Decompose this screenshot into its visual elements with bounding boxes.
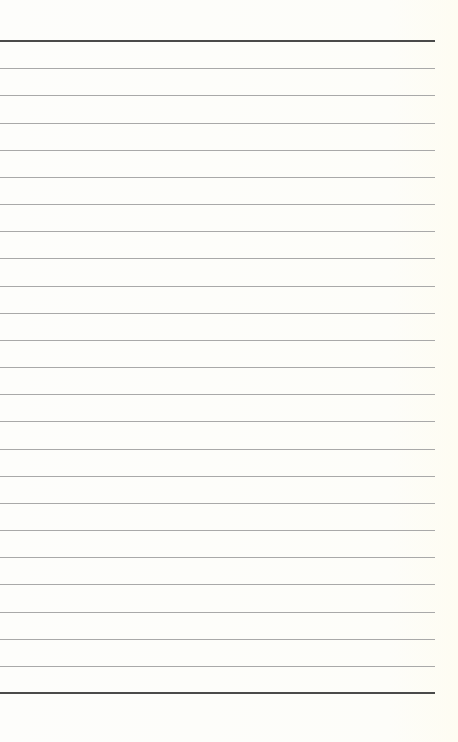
ruled-line [0,313,435,314]
ruled-line [0,286,435,287]
ruled-line [0,204,435,205]
ruled-line [0,340,435,341]
ruled-line [0,612,435,613]
ruled-line [0,177,435,178]
ruled-line [0,367,435,368]
ruled-line [0,123,435,124]
ruled-line [0,150,435,151]
lined-paper-page [0,0,458,742]
ruled-line [0,231,435,232]
ruled-line [0,584,435,585]
ruled-line [0,68,435,69]
ruled-line [0,258,435,259]
ruled-line [0,476,435,477]
ruled-line [0,503,435,504]
ruled-line [0,666,435,667]
ruled-line [0,639,435,640]
ruled-line [0,394,435,395]
ruled-line [0,530,435,531]
top-border-rule [0,40,435,42]
ruled-line [0,95,435,96]
ruled-line [0,557,435,558]
bottom-border-rule [0,692,435,694]
ruled-line [0,421,435,422]
ruled-line [0,449,435,450]
